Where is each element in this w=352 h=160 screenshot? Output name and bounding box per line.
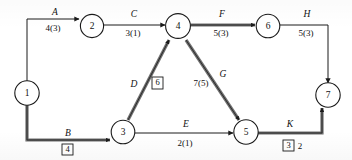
edge-c-label: C: [131, 9, 138, 19]
edge-d-label: D: [130, 79, 138, 89]
node-3-label: 3: [121, 127, 126, 137]
edge-f-duration: 5(3): [214, 28, 229, 38]
node-7[interactable]: 7: [316, 83, 340, 107]
node-1-label: 1: [25, 88, 30, 98]
node-5-label: 5: [244, 127, 249, 137]
edge-a-duration: 4(3): [46, 23, 61, 33]
edge-d-boxed-value: 6: [152, 77, 163, 89]
edge-e: E 2(1): [135, 119, 233, 148]
edge-c: C 3(1): [104, 9, 165, 38]
edge-h-label: H: [303, 9, 312, 19]
network-diagram: A 4(3) B 4 C 3(1) D 6: [0, 0, 352, 160]
node-6[interactable]: 6: [256, 14, 280, 38]
network-graph-canvas: A 4(3) B 4 C 3(1) D 6: [0, 0, 352, 160]
node-2[interactable]: 2: [80, 14, 103, 37]
node-3[interactable]: 3: [111, 120, 135, 144]
node-6-label: 6: [266, 21, 271, 31]
edge-a: A 4(3): [27, 7, 79, 81]
edge-h: H 5(3): [280, 9, 328, 83]
edge-d-boxed-text: 6: [155, 77, 159, 87]
edge-f-label: F: [218, 9, 225, 19]
edge-f: F 5(3): [190, 9, 255, 38]
edge-k: K 3 2: [258, 108, 322, 151]
edge-e-label: E: [182, 119, 189, 129]
node-5[interactable]: 5: [234, 120, 258, 144]
edge-k-label: K: [286, 119, 294, 129]
edge-g-label: G: [220, 69, 227, 79]
edge-g: G 7(5): [186, 40, 239, 120]
edge-c-duration: 3(1): [126, 28, 141, 38]
edge-k-extra-value: 2: [298, 141, 303, 151]
edge-g-duration: 7(5): [194, 78, 209, 88]
edge-k-boxed-value: 3: [283, 140, 294, 151]
edge-b-label: B: [65, 128, 71, 138]
node-4[interactable]: 4: [166, 14, 191, 39]
edge-b: B 4: [27, 105, 110, 155]
edge-e-duration: 2(1): [178, 138, 193, 148]
edge-a-label: A: [51, 7, 58, 17]
node-2-label: 2: [90, 21, 95, 31]
edge-k-boxed-text: 3: [286, 140, 290, 150]
node-1[interactable]: 1: [15, 81, 39, 105]
node-4-label: 4: [176, 21, 181, 31]
edge-h-duration: 5(3): [299, 28, 314, 38]
edge-d: D 6: [128, 40, 169, 120]
edge-b-boxed-value: 4: [62, 144, 73, 155]
node-7-label: 7: [326, 90, 331, 100]
